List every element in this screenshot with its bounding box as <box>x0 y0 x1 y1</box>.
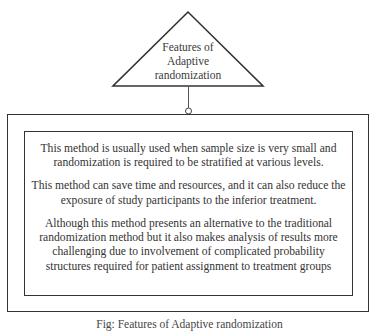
title-line-2: Adaptive <box>138 54 238 68</box>
title-line-3: randomization <box>138 68 238 82</box>
feature-item-1: This method is usually used when sample … <box>31 142 346 171</box>
feature-item-3: Although this method presents an alterna… <box>31 217 346 275</box>
features-list: This method is usually used when sample … <box>24 131 353 296</box>
feature-item-2: This method can save time and resources,… <box>31 179 346 208</box>
figure-caption: Fig: Features of Adaptive randomization <box>0 317 379 331</box>
title-line-1: Features of <box>138 40 238 54</box>
diagram-title: Features of Adaptive randomization <box>138 40 238 82</box>
